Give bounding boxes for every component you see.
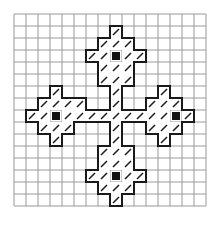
filled-cell — [112, 52, 120, 60]
filled-cell — [52, 112, 60, 120]
filled-cell — [112, 172, 120, 180]
pattern-cells — [26, 26, 194, 206]
stitch-pattern-diagram — [0, 0, 224, 235]
filled-cell — [172, 112, 180, 120]
